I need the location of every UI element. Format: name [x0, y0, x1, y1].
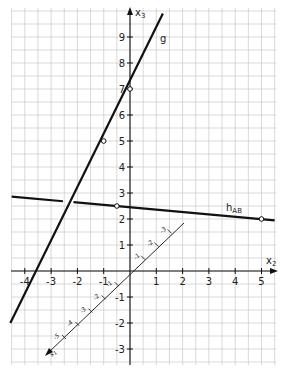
point-marker	[128, 87, 133, 92]
x2-tick-label: 4	[232, 276, 238, 287]
subscript: 2	[272, 260, 276, 268]
x3-tick-label: 1	[119, 240, 125, 251]
line-g-label: g	[160, 33, 166, 44]
coordinate-diagram: -4-3-2-112345-3-2-1123456789x2x3-1-2-3-4…	[0, 0, 286, 376]
point-marker	[259, 217, 264, 222]
x1-tick-label: -3	[78, 305, 87, 314]
point-marker	[101, 139, 106, 144]
x3-tick-label: 7	[119, 84, 125, 95]
x2-tick-label: -2	[72, 276, 82, 287]
subscript: AB	[232, 207, 242, 215]
x1-tick-label: -3	[158, 225, 167, 234]
x1-axis-line	[48, 223, 184, 353]
x2-tick-label: 5	[258, 276, 264, 287]
x2-tick-label: -4	[20, 276, 30, 287]
x3-tick-label: 8	[119, 58, 125, 69]
x2-tick-label: 1	[153, 276, 159, 287]
x3-tick-label: -3	[115, 344, 125, 355]
grid	[11, 8, 276, 365]
x3-tick-label: 2	[119, 214, 125, 225]
line-h-label: hAB	[226, 202, 242, 215]
x2-tick-label: -3	[46, 276, 56, 287]
x2-tick-label: 2	[179, 276, 185, 287]
line-g	[10, 14, 163, 323]
point-marker	[115, 204, 120, 209]
x1-tick-label: -1	[132, 252, 141, 261]
subscript: 1	[52, 349, 58, 355]
x2-arrow-icon	[270, 268, 278, 274]
x1-tick-label: -2	[145, 238, 154, 247]
x3-tick-label: -1	[115, 292, 125, 303]
x2-tick-label: 3	[206, 276, 212, 287]
x3-tick-label: 9	[119, 32, 125, 43]
x3-tick-label: 4	[119, 162, 125, 173]
line-h_AB-segment	[12, 197, 63, 202]
labels: -4-3-2-112345-3-2-1123456789x2x3-1-2-3-4…	[20, 7, 277, 359]
subscript: 3	[141, 12, 145, 20]
x3-tick-label: -2	[115, 318, 125, 329]
x3-tick-label: 5	[119, 136, 125, 147]
x3-tick-label: 6	[119, 110, 125, 121]
x1-tick-label: -4	[65, 318, 74, 327]
x3-tick-label: 3	[119, 188, 125, 199]
x1-tick-label: -5	[52, 332, 61, 341]
x1-tick-label: -2	[91, 292, 100, 301]
x3-axis-label: x3	[135, 7, 145, 20]
